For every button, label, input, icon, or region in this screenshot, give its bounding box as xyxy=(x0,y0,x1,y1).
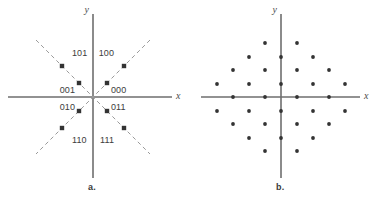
constellation-point xyxy=(327,122,331,126)
panel-a-label-101: 101 xyxy=(72,48,87,58)
panel-a-caption: a. xyxy=(88,182,96,192)
constellation-point xyxy=(215,109,219,113)
constellation-point xyxy=(263,41,267,45)
panel-a-label-100: 100 xyxy=(99,48,114,58)
panel-a: x y 101100001000010011110111 xyxy=(8,4,181,178)
constellation-point xyxy=(279,136,283,140)
panel-a-label-010: 010 xyxy=(60,102,75,112)
constellation-point xyxy=(343,82,347,86)
panel-b-y-axis-label: y xyxy=(272,4,278,15)
panel-b: x y xyxy=(201,4,369,178)
constellation-point xyxy=(311,109,315,113)
panel-a-point-110 xyxy=(60,126,64,130)
constellation-point xyxy=(311,55,315,59)
constellation-point xyxy=(327,95,331,99)
constellation-point xyxy=(247,55,251,59)
panel-a-point-011 xyxy=(105,109,109,113)
constellation-point xyxy=(295,149,299,153)
constellation-point xyxy=(247,136,251,140)
constellation-point xyxy=(327,68,331,72)
figure-root: x y 101100001000010011110111 x y a. b. xyxy=(0,0,384,201)
panel-a-point-111 xyxy=(122,126,126,130)
panel-b-x-axis-label: x xyxy=(363,90,369,101)
constellation-point xyxy=(295,41,299,45)
constellation-point xyxy=(279,109,283,113)
constellation-point xyxy=(311,136,315,140)
panel-a-label-000: 000 xyxy=(111,85,126,95)
constellation-point xyxy=(295,68,299,72)
constellation-point xyxy=(215,82,219,86)
panel-b-caption: b. xyxy=(276,182,284,192)
constellation-point xyxy=(231,122,235,126)
panel-a-point-101 xyxy=(60,64,64,68)
constellation-point xyxy=(263,122,267,126)
panel-a-label-111: 111 xyxy=(100,135,114,145)
constellation-point xyxy=(231,95,235,99)
panel-a-label-011: 011 xyxy=(111,102,126,112)
constellation-point xyxy=(263,95,267,99)
constellation-point xyxy=(247,82,251,86)
constellation-point xyxy=(311,82,315,86)
panel-a-label-110: 110 xyxy=(72,135,87,145)
panel-a-y-axis-label: y xyxy=(84,4,90,15)
constellation-point xyxy=(231,68,235,72)
constellation-point xyxy=(295,122,299,126)
constellation-point xyxy=(263,68,267,72)
panel-a-point-100 xyxy=(122,64,126,68)
constellation-figure: x y 101100001000010011110111 x y xyxy=(0,0,384,201)
constellation-point xyxy=(263,149,267,153)
constellation-point xyxy=(279,55,283,59)
constellation-point xyxy=(279,82,283,86)
constellation-point xyxy=(247,109,251,113)
constellation-point xyxy=(295,95,299,99)
constellation-point xyxy=(343,109,347,113)
panel-a-x-axis-label: x xyxy=(175,90,181,101)
panel-a-point-010 xyxy=(77,109,81,113)
panel-a-point-001 xyxy=(77,81,81,85)
panel-a-point-000 xyxy=(105,81,109,85)
panel-a-label-001: 001 xyxy=(60,85,75,95)
